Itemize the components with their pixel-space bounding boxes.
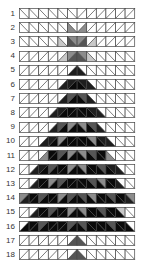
- half-square-triangle-block: [48, 37, 58, 47]
- half-square-triangle-block: [48, 65, 58, 75]
- half-square-triangle-block: [96, 51, 106, 61]
- half-square-triangle-block: [116, 165, 126, 175]
- half-square-triangle-block: [20, 250, 30, 260]
- half-square-triangle-block: [68, 51, 78, 61]
- half-square-triangle-block: [77, 37, 87, 47]
- half-square-triangle-block: [58, 236, 68, 246]
- half-square-triangle-block: [125, 122, 135, 132]
- row-blocks: [19, 150, 135, 161]
- half-square-triangle-block: [106, 94, 116, 104]
- row-blocks: [19, 93, 135, 104]
- row-3: 3: [0, 36, 148, 47]
- half-square-triangle-block: [39, 51, 49, 61]
- row-number: 2: [0, 22, 15, 33]
- half-square-triangle-block: [39, 122, 49, 132]
- half-square-triangle-block: [87, 80, 97, 90]
- half-square-triangle-block: [77, 193, 87, 203]
- half-square-triangle-block: [116, 37, 126, 47]
- half-square-triangle-block: [29, 37, 39, 47]
- half-square-triangle-block: [39, 222, 49, 232]
- row-number: 12: [0, 164, 15, 175]
- half-square-triangle-block: [68, 94, 78, 104]
- half-square-triangle-block: [48, 94, 58, 104]
- half-square-triangle-block: [96, 122, 106, 132]
- half-square-triangle-block: [68, 179, 78, 189]
- half-square-triangle-block: [106, 207, 116, 217]
- half-square-triangle-block: [39, 108, 49, 118]
- row-blocks: [19, 249, 135, 260]
- half-square-triangle-block: [106, 165, 116, 175]
- half-square-triangle-block: [20, 51, 30, 61]
- row-number: 3: [0, 36, 15, 47]
- half-square-triangle-block: [68, 122, 78, 132]
- half-square-triangle-block: [68, 222, 78, 232]
- half-square-triangle-block: [29, 193, 39, 203]
- half-square-triangle-block: [116, 179, 126, 189]
- half-square-triangle-block: [96, 250, 106, 260]
- half-square-triangle-block: [106, 80, 116, 90]
- half-square-triangle-block: [125, 207, 135, 217]
- half-square-triangle-block: [106, 193, 116, 203]
- half-square-triangle-block: [106, 23, 116, 33]
- half-square-triangle-block: [106, 222, 116, 232]
- half-square-triangle-block: [20, 151, 30, 161]
- half-square-triangle-block: [87, 151, 97, 161]
- half-square-triangle-block: [87, 108, 97, 118]
- half-square-triangle-block: [77, 65, 87, 75]
- half-square-triangle-block: [106, 236, 116, 246]
- half-square-triangle-block: [68, 165, 78, 175]
- half-square-triangle-block: [106, 51, 116, 61]
- half-square-triangle-block: [58, 179, 68, 189]
- half-square-triangle-block: [39, 9, 49, 19]
- half-square-triangle-block: [68, 207, 78, 217]
- half-square-triangle-block: [116, 65, 126, 75]
- half-square-triangle-block: [125, 51, 135, 61]
- half-square-triangle-block: [20, 65, 30, 75]
- row-17: 17: [0, 235, 148, 246]
- half-square-triangle-block: [116, 108, 126, 118]
- half-square-triangle-block: [29, 65, 39, 75]
- half-square-triangle-block: [77, 51, 87, 61]
- half-square-triangle-block: [68, 193, 78, 203]
- row-number: 7: [0, 93, 15, 104]
- half-square-triangle-block: [96, 165, 106, 175]
- half-square-triangle-block: [116, 250, 126, 260]
- half-square-triangle-block: [48, 136, 58, 146]
- half-square-triangle-block: [125, 193, 135, 203]
- half-square-triangle-block: [39, 23, 49, 33]
- half-square-triangle-block: [68, 250, 78, 260]
- row-4: 4: [0, 51, 148, 62]
- half-square-triangle-block: [116, 23, 126, 33]
- half-square-triangle-block: [106, 65, 116, 75]
- half-square-triangle-block: [116, 236, 126, 246]
- half-square-triangle-block: [20, 193, 30, 203]
- row-5: 5: [0, 65, 148, 76]
- row-number: 16: [0, 221, 15, 232]
- half-square-triangle-block: [29, 51, 39, 61]
- half-square-triangle-block: [58, 151, 68, 161]
- half-square-triangle-block: [58, 23, 68, 33]
- row-number: 6: [0, 79, 15, 90]
- half-square-triangle-block: [116, 94, 126, 104]
- half-square-triangle-block: [87, 37, 97, 47]
- row-7: 7: [0, 93, 148, 104]
- half-square-triangle-block: [39, 65, 49, 75]
- half-square-triangle-block: [20, 23, 30, 33]
- half-square-triangle-block: [106, 250, 116, 260]
- row-11: 11: [0, 150, 148, 161]
- half-square-triangle-block: [87, 165, 97, 175]
- half-square-triangle-block: [29, 222, 39, 232]
- row-blocks: [19, 136, 135, 147]
- half-square-triangle-block: [48, 9, 58, 19]
- half-square-triangle-block: [96, 136, 106, 146]
- row-number: 17: [0, 235, 15, 246]
- row-number: 5: [0, 64, 15, 75]
- half-square-triangle-block: [68, 23, 78, 33]
- row-number: 11: [0, 150, 15, 161]
- half-square-triangle-block: [96, 94, 106, 104]
- half-square-triangle-block: [68, 108, 78, 118]
- half-square-triangle-block: [125, 250, 135, 260]
- half-square-triangle-block: [87, 65, 97, 75]
- half-square-triangle-block: [87, 122, 97, 132]
- half-square-triangle-block: [96, 193, 106, 203]
